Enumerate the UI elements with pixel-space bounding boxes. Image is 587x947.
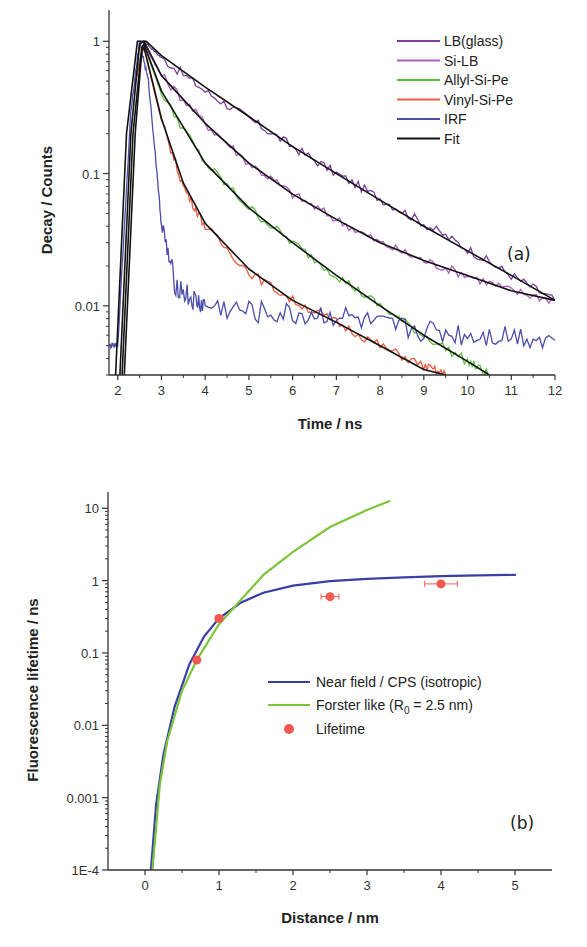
- chart-a-xtick-label: 3: [158, 383, 165, 398]
- chart-b-ytick-label: 1: [92, 574, 99, 589]
- chart-a-ytick-label: 0.1: [82, 167, 100, 182]
- chart-a-xtick-label: 7: [333, 383, 340, 398]
- chart-b-axes: 0123451010.10.010.0011E-4: [66, 492, 552, 893]
- figure: 2345678910111210.10.01 Time / ns Decay /…: [0, 0, 587, 947]
- chart-a-axes: 2345678910111210.10.01: [75, 10, 563, 398]
- chart-b-ytick-label: 0.1: [81, 646, 99, 661]
- chart-b-lifetime: 0123451010.10.010.0011E-4 Distance / nm …: [24, 492, 552, 926]
- chart-b-ylabel: Fluorescence lifetime / ns: [24, 598, 41, 781]
- chart-a-ylabel: Decay / Counts: [38, 146, 55, 254]
- chart-a-xtick-label: 10: [460, 383, 474, 398]
- chart-a-xlabel: Time / ns: [298, 415, 363, 432]
- chart-b-ytick-label: 1E-4: [72, 863, 99, 878]
- legend-label: Allyl-Si-Pe: [444, 72, 509, 88]
- chart-b-xtick-label: 0: [141, 878, 148, 893]
- lifetime-data-point: [192, 655, 201, 664]
- chart-a-xtick-label: 6: [289, 383, 296, 398]
- lifetime-data-point: [437, 579, 446, 588]
- legend-label: Fit: [444, 131, 460, 147]
- chart-a-xtick-label: 12: [548, 383, 562, 398]
- lifetime-data-point: [215, 614, 224, 623]
- chart-a-ytick-label: 1: [93, 34, 100, 49]
- chart-b-xtick-label: 3: [363, 878, 370, 893]
- legend-forster-label: Forster like (R0 = 2.5 nm): [316, 697, 473, 716]
- chart-a-xtick-label: 4: [202, 383, 209, 398]
- chart-a-legend: LB(glass)Si-LBAllyl-Si-PeVinyl-Si-PeIRFF…: [397, 33, 513, 147]
- legend-label: Si-LB: [444, 53, 478, 69]
- chart-b-xtick-label: 5: [511, 878, 518, 893]
- chart-a-xtick-label: 5: [245, 383, 252, 398]
- legend-label: IRF: [444, 111, 467, 127]
- chart-b-xtick-label: 2: [289, 878, 296, 893]
- lifetime-data-point: [326, 592, 335, 601]
- legend-lifetime-marker: [284, 724, 294, 734]
- legend-lifetime-label: Lifetime: [316, 721, 365, 737]
- chart-a-xtick-label: 9: [420, 383, 427, 398]
- chart-b-xtick-label: 4: [437, 878, 444, 893]
- legend-near-field-label: Near field / CPS (isotropic): [316, 674, 482, 690]
- chart-a-ytick-label: 0.01: [75, 299, 100, 314]
- chart-b-xlabel: Distance / nm: [281, 909, 379, 926]
- chart-b-ytick-label: 0.001: [66, 791, 99, 806]
- chart-a-decay: 2345678910111210.10.01 Time / ns Decay /…: [38, 10, 562, 432]
- chart-a-xtick-label: 11: [505, 383, 519, 398]
- chart-b-ytick-label: 10: [85, 501, 99, 516]
- chart-b-legend: Near field / CPS (isotropic) Forster lik…: [268, 674, 482, 737]
- legend-label: Vinyl-Si-Pe: [444, 92, 513, 108]
- chart-b-ytick-label: 0.01: [74, 718, 99, 733]
- legend-label: LB(glass): [444, 33, 503, 49]
- chart-a-panel-label: (a): [507, 244, 531, 264]
- chart-a-xtick-label: 2: [114, 383, 121, 398]
- series-allyl-si-pe: [135, 44, 489, 376]
- chart-b-xtick-label: 1: [215, 878, 222, 893]
- chart-b-panel-label: (b): [510, 813, 534, 833]
- chart-a-xtick-label: 8: [376, 383, 383, 398]
